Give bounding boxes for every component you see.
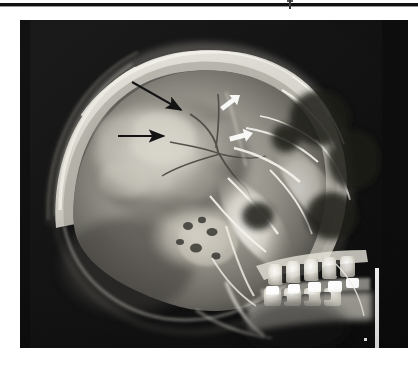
annotation-arrow-layer [20,20,408,348]
rule-tick-icon [289,0,291,9]
lateral-skull-radiograph: Lateral skull radiograph showing the cra… [20,20,408,348]
white-arrow-upper-icon [218,90,244,114]
page-root: Lateral skull radiograph showing the cra… [0,0,418,368]
horizontal-rule-shadow [0,6,418,7]
black-arrow-upper-icon [132,82,181,110]
white-arrow-lower-icon [228,126,255,145]
